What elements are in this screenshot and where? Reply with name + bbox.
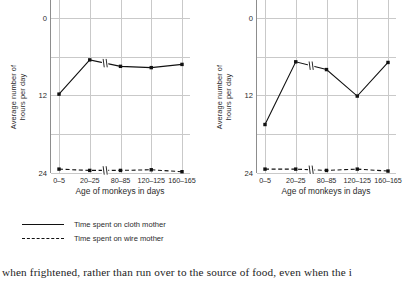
axis-break-marker-icon <box>102 59 108 68</box>
data-point-marker <box>386 169 389 172</box>
data-point-marker <box>325 169 328 172</box>
x-tick-label: 0–5 <box>53 176 65 185</box>
chart-panel-left: Average number of hours per day 241200–5… <box>0 0 206 205</box>
x-tick-label: 20–25 <box>80 176 100 185</box>
axis-break-marker-icon <box>308 61 314 70</box>
gridline-horizontal <box>51 173 190 174</box>
legend-label-cloth: Time spent on cloth mother <box>74 218 166 231</box>
y-tick-label: 12 <box>245 91 253 100</box>
data-point-marker <box>119 169 122 172</box>
data-point-marker <box>263 123 266 126</box>
x-tick-label: 0–5 <box>259 176 271 185</box>
y-tick-label: 0 <box>43 13 47 22</box>
legend-line-dashed-icon <box>22 238 64 239</box>
data-point-marker <box>150 66 153 69</box>
legend-item-cloth: Time spent on cloth mother <box>22 218 232 232</box>
data-point-marker <box>386 61 389 64</box>
legend-line-solid-icon <box>22 224 64 225</box>
legend-item-wire: Time spent on wire mother <box>22 232 232 246</box>
x-tick-label: 80–85 <box>317 176 337 185</box>
y-axis-title-right: Average number of hours per day <box>215 42 233 152</box>
x-axis-title-left: Age of monkeys in days <box>50 186 190 196</box>
axis-break-marker-icon <box>102 166 108 175</box>
data-point-marker <box>88 58 91 61</box>
data-point-marker <box>119 65 122 68</box>
y-tick-label: 0 <box>249 13 253 22</box>
series-layer <box>257 0 396 173</box>
data-point-marker <box>356 94 359 97</box>
x-tick-label: 120–125 <box>138 176 165 185</box>
data-point-marker <box>57 92 60 95</box>
chart-panel-right: Average number of hours per day 241200–5… <box>206 0 412 205</box>
data-point-marker <box>294 60 297 63</box>
data-point-marker <box>294 167 297 170</box>
body-text-line: when frightened, rather than run over to… <box>2 266 412 278</box>
x-tick-label: 80–85 <box>111 176 131 185</box>
plot-area-left: 241200–520–2580–85120–125160–165 <box>50 0 190 173</box>
data-point-marker <box>180 63 183 66</box>
y-tick-label: 24 <box>39 169 47 178</box>
data-point-marker <box>356 167 359 170</box>
legend: Time spent on cloth mother Time spent on… <box>22 218 232 246</box>
x-tick-label: 20–25 <box>286 176 306 185</box>
legend-label-wire: Time spent on wire mother <box>74 232 164 245</box>
data-point-marker <box>180 170 183 173</box>
data-point-marker <box>263 167 266 170</box>
x-tick-label: 160–165 <box>374 176 401 185</box>
x-tick-label: 160–165 <box>168 176 195 185</box>
data-point-marker <box>325 68 328 71</box>
y-tick-label: 24 <box>245 169 253 178</box>
plot-area-right: 241200–520–2580–85120–125160–165 <box>256 0 396 173</box>
data-point-marker <box>57 167 60 170</box>
x-axis-title-right: Age of monkeys in days <box>256 186 396 196</box>
data-point-marker <box>88 169 91 172</box>
y-tick-label: 12 <box>39 91 47 100</box>
axis-break-marker-icon <box>308 165 314 174</box>
figure-container: Average number of hours per day 241200–5… <box>0 0 412 289</box>
data-point-marker <box>150 168 153 171</box>
y-axis-title-left: Average number of hours per day <box>9 42 27 152</box>
x-tick-label: 120–125 <box>344 176 371 185</box>
gridline-horizontal <box>257 173 396 174</box>
series-layer <box>51 0 190 173</box>
